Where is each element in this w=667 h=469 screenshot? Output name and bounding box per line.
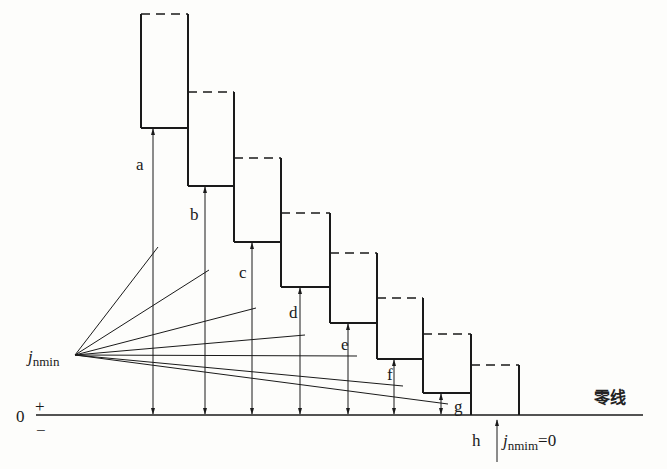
fan-line-a bbox=[75, 247, 158, 355]
deviation-label-a: a bbox=[136, 155, 144, 174]
deviation-label-b: b bbox=[190, 205, 199, 224]
deviation-label-f: f bbox=[387, 365, 393, 384]
plus-sign: + bbox=[35, 397, 45, 416]
deviation-label-h: h bbox=[472, 431, 481, 450]
deviation-label-d: d bbox=[289, 303, 298, 322]
jnmin-label: jnmin bbox=[26, 347, 60, 369]
deviation-diagram: 零线 0 + − jnmin abcdefgh jnmim=0 bbox=[0, 0, 667, 469]
fan-line-c bbox=[75, 308, 256, 355]
deviation-label-e: e bbox=[341, 335, 349, 354]
zero-line-label: 零线 bbox=[593, 388, 626, 407]
deviation-label-g: g bbox=[454, 397, 463, 416]
fan-line-e bbox=[75, 355, 357, 356]
fan-line-f bbox=[75, 355, 403, 386]
fan-line-b bbox=[75, 270, 209, 355]
fan-line-d bbox=[75, 335, 305, 355]
zero-label: 0 bbox=[16, 407, 25, 426]
minus-sign: − bbox=[36, 421, 46, 440]
h-note: jnmim=0 bbox=[501, 431, 556, 453]
deviation-label-c: c bbox=[239, 263, 247, 282]
deviation-labels: abcdefgh bbox=[136, 155, 481, 450]
